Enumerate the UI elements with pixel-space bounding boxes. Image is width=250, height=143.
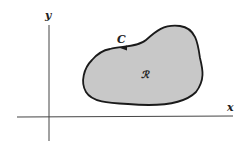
diagram-svg: y x C ℛ bbox=[0, 0, 250, 143]
y-axis-label: y bbox=[44, 9, 53, 22]
diagram-canvas: y x C ℛ bbox=[0, 0, 250, 143]
curve-label-c: C bbox=[117, 33, 126, 46]
x-axis-label: x bbox=[226, 101, 234, 114]
region-r bbox=[83, 26, 202, 105]
region-label-r: ℛ bbox=[141, 69, 150, 80]
